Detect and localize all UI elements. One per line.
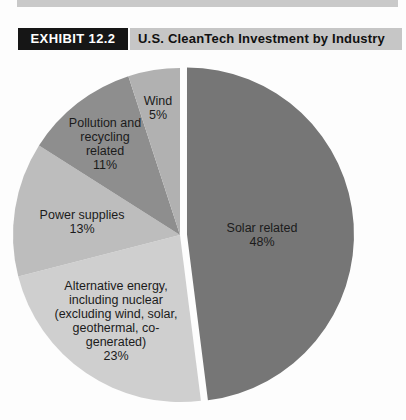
- slice-label-pollution-recycling: Pollution and recycling related 11%: [69, 116, 141, 172]
- slice-label-solar: Solar related 48%: [227, 221, 298, 249]
- slice-label-power-supplies: Power supplies 13%: [40, 208, 125, 236]
- chart-area: Solar related 48% Alternative energy, in…: [0, 0, 406, 420]
- slice-label-wind: Wind 5%: [144, 94, 172, 122]
- slice-label-alternative-energy: Alternative energy, including nuclear (e…: [55, 279, 178, 363]
